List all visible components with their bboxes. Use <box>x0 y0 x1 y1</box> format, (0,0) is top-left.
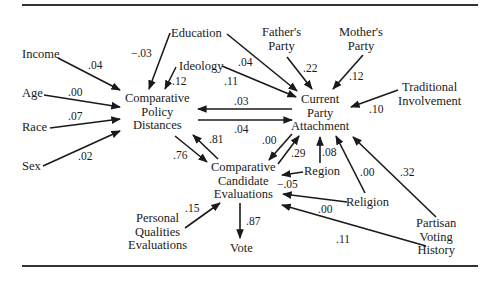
coef-religion-cce: .00 <box>318 203 332 215</box>
node-sex: Sex <box>22 160 41 174</box>
arrow-region-cce <box>282 172 303 175</box>
node-mothers-party: Mother's Party <box>339 26 383 53</box>
coef-pqe-cce: .15 <box>185 202 199 214</box>
coef-region-cce: −.05 <box>277 178 298 190</box>
coef-father-cpa: .22 <box>303 62 317 74</box>
coef-income-cpd: .04 <box>88 59 102 71</box>
node-income: Income <box>22 48 59 62</box>
coef-ideo-cpd: .12 <box>172 75 186 87</box>
coef-religion-cpa: .00 <box>360 166 374 178</box>
arrow-education-cpd <box>149 33 170 89</box>
arrow-race-cpd <box>50 119 120 128</box>
coef-pvh-cpa: .32 <box>400 166 414 178</box>
coef-cce-vote: .87 <box>246 215 260 227</box>
node-region: Region <box>304 165 340 179</box>
node-age: Age <box>22 87 43 101</box>
coef-cpa-cpd: .03 <box>234 95 248 107</box>
node-current-party-attachment: Current Party Attachment <box>291 93 349 134</box>
coef-cpd-cpa: .04 <box>234 123 248 135</box>
coef-trad-cpa: .10 <box>369 103 383 115</box>
node-comparative-policy-distances: Comparative Policy Distances <box>125 92 190 133</box>
coef-mother-cpa: .12 <box>349 70 363 82</box>
node-partisan-voting-history: Partisan Voting History <box>416 217 456 258</box>
coef-cpa-cce: .00 <box>262 134 276 146</box>
coef-pvh-cce: .11 <box>336 233 350 245</box>
node-traditional-involvement: Traditional Involvement <box>398 81 461 108</box>
coef-cce-cpd: .81 <box>209 133 223 145</box>
coef-cce-cpa: .29 <box>291 147 305 159</box>
arrow-religion-cce <box>283 194 347 202</box>
arrow-pvh-cce <box>282 205 426 246</box>
node-fathers-party: Father's Party <box>262 26 301 53</box>
coef-region-cpa: .08 <box>322 146 336 158</box>
coef-edu-cpa: .04 <box>238 56 252 68</box>
path-arrows <box>0 0 481 282</box>
node-education: Education <box>171 27 222 41</box>
coef-race-cpd: .07 <box>68 110 82 122</box>
coef-ideo-cpa: .11 <box>224 75 238 87</box>
coef-sex-cpd: .02 <box>78 150 92 162</box>
node-ideology: Ideology <box>179 60 223 74</box>
node-vote: Vote <box>230 242 253 256</box>
node-comparative-candidate-evaluations: Comparative Candidate Evaluations <box>211 161 276 202</box>
coef-edu-cpd: −.03 <box>131 47 152 59</box>
coef-cpd-cce: .76 <box>173 149 187 161</box>
node-race: Race <box>22 121 47 135</box>
coef-age-cpd: .00 <box>68 86 82 98</box>
node-personal-qualities-evaluations: Personal Qualities Evaluations <box>128 212 187 253</box>
node-religion: Religion <box>346 196 389 210</box>
